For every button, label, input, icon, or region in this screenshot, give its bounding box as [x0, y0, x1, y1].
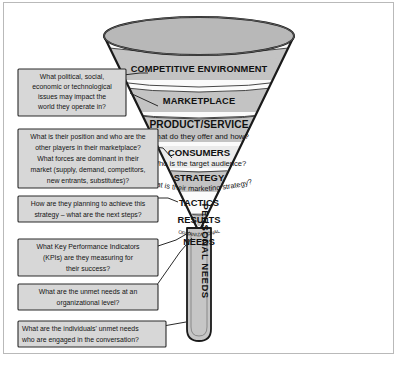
callout-organizational-needs[interactable]: What are the unmet needs at an organizat…	[18, 284, 158, 310]
tier-label-tactics: TACTICS	[179, 197, 219, 208]
callout-results[interactable]: What Key Performance Indicators (KPIs) a…	[18, 239, 158, 276]
callout-line: world they operate in?	[37, 103, 106, 111]
callout-competitive-environment[interactable]: What political, social, economic or tech…	[18, 69, 126, 116]
callout-line: their success?	[66, 265, 110, 272]
funnel-diagram-canvas: COMPETITIVE ENVIRONMENT MARKETPLACE PROD…	[0, 0, 398, 367]
tier-label-marketplace: MARKETPLACE	[163, 96, 235, 106]
callout-line: who are engaged in the conversation?	[21, 336, 139, 344]
callout-tactics[interactable]: How are they planning to achieve this st…	[18, 196, 158, 222]
callout-line: What political, social,	[40, 73, 104, 81]
tier-sublabel-consumers: Who is the target audience?	[152, 159, 247, 168]
callout-line: organizational level?	[57, 299, 120, 307]
callout-line: How are they planning to achieve this	[31, 200, 146, 208]
callout-line: What are the individuals' unmet needs	[22, 325, 139, 332]
callout-line: market (supply, demand, competitors,	[31, 166, 146, 174]
callout-line: What is their position and who are the	[30, 133, 145, 141]
tier-label-consumers: CONSUMERS	[168, 147, 231, 158]
callout-personal-needs[interactable]: What are the individuals' unmet needs wh…	[18, 321, 166, 347]
tier-label-competitive-environment: COMPETITIVE ENVIRONMENT	[131, 64, 268, 74]
callout-marketplace[interactable]: What is their position and who are the o…	[18, 129, 158, 188]
tier-label-results: RESULTS	[177, 214, 220, 225]
tier-label-product-service: PRODUCT/SERVICE	[149, 119, 248, 130]
callout-line: strategy – what are the next steps?	[34, 211, 141, 219]
callout-line: issues may impact the	[38, 93, 106, 101]
callout-line: What forces are dominant in their	[37, 155, 139, 162]
funnel-diagram-page: COMPETITIVE ENVIRONMENT MARKETPLACE PROD…	[0, 0, 398, 367]
callout-line: new entrants, substitutes)?	[47, 177, 130, 185]
callout-line: What are the unmet needs at an	[39, 288, 138, 295]
tier-sublabel-product-service: What do they offer and how?	[149, 132, 249, 141]
callout-line: (KPIs) are they measuring for	[43, 254, 134, 262]
callout-line: economic or technological	[32, 83, 112, 91]
neck-label-personal-needs: PERSONAL NEEDS	[200, 203, 211, 298]
callout-line: other players in their marketplace?	[35, 144, 141, 152]
tier-label-strategy: STRATEGY	[174, 172, 225, 183]
callout-line: What Key Performance Indicators	[36, 243, 140, 251]
